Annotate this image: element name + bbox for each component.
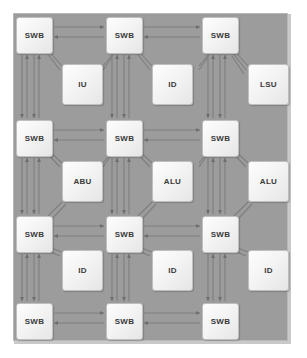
switch-block-label: SWB (25, 31, 45, 40)
switch-block-label: SWB (25, 317, 45, 326)
diagram-canvas: SWB SWB SWB SWB SWB SWB SWB SWB SWB SWB … (0, 0, 307, 358)
switch-block-r2c2[interactable]: SWB (106, 120, 143, 157)
switch-block-r2c3[interactable]: SWB (202, 120, 239, 157)
switch-block-label: SWB (211, 230, 231, 239)
functional-unit-iu[interactable]: IU (62, 64, 103, 105)
functional-unit-label: ID (168, 80, 177, 89)
switch-block-label: SWB (115, 317, 135, 326)
functional-unit-alu-1[interactable]: ALU (152, 161, 193, 202)
functional-unit-label: IU (78, 80, 87, 89)
switch-block-r1c3[interactable]: SWB (202, 17, 239, 54)
functional-unit-label: LSU (260, 80, 277, 89)
functional-unit-alu-2[interactable]: ALU (248, 161, 289, 202)
functional-unit-id-3[interactable]: ID (152, 250, 193, 291)
switch-block-label: SWB (115, 134, 135, 143)
switch-block-label: SWB (211, 317, 231, 326)
functional-unit-label: ID (168, 266, 177, 275)
functional-unit-id-4[interactable]: ID (248, 250, 289, 291)
switch-block-r4c1[interactable]: SWB (16, 303, 53, 340)
switch-block-label: SWB (115, 31, 135, 40)
switch-block-r1c1[interactable]: SWB (16, 17, 53, 54)
functional-unit-lsu[interactable]: LSU (248, 64, 289, 105)
switch-block-label: SWB (211, 31, 231, 40)
functional-unit-label: ABU (73, 177, 91, 186)
functional-unit-id-1[interactable]: ID (152, 64, 193, 105)
switch-block-r2c1[interactable]: SWB (16, 120, 53, 157)
switch-block-r4c2[interactable]: SWB (106, 303, 143, 340)
switch-block-r3c3[interactable]: SWB (202, 216, 239, 253)
functional-unit-label: ALU (164, 177, 181, 186)
switch-block-label: SWB (25, 230, 45, 239)
switch-block-label: SWB (115, 230, 135, 239)
functional-unit-id-2[interactable]: ID (62, 250, 103, 291)
functional-unit-label: ID (78, 266, 87, 275)
switch-block-r3c1[interactable]: SWB (16, 216, 53, 253)
functional-unit-label: ALU (260, 177, 277, 186)
functional-unit-abu[interactable]: ABU (62, 161, 103, 202)
switch-block-r1c2[interactable]: SWB (106, 17, 143, 54)
switch-block-label: SWB (211, 134, 231, 143)
switch-block-r4c3[interactable]: SWB (202, 303, 239, 340)
functional-unit-label: ID (264, 266, 273, 275)
switch-block-r3c2[interactable]: SWB (106, 216, 143, 253)
switch-block-label: SWB (25, 134, 45, 143)
